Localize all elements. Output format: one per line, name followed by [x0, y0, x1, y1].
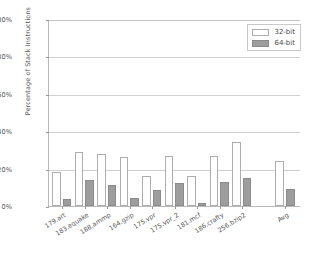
- y-tick-mark: [46, 95, 49, 96]
- bar-32bit: [275, 161, 284, 206]
- bar-group: [117, 20, 140, 206]
- legend-label-32bit: 32-bit: [274, 28, 295, 36]
- y-tick-mark: [46, 20, 49, 21]
- y-tick-label: 100%: [0, 16, 12, 24]
- x-tick-mark: [62, 206, 63, 209]
- bar-32bit: [97, 154, 106, 206]
- x-tick-mark: [220, 206, 221, 209]
- y-tick-label: 0%: [0, 203, 12, 211]
- y-tick-label: 60%: [0, 91, 12, 99]
- legend-label-64bit: 64-bit: [274, 39, 295, 47]
- legend-item-32bit[interactable]: 32-bit: [252, 28, 295, 36]
- bar-32bit: [187, 176, 196, 206]
- x-tick-mark: [130, 206, 131, 209]
- bar-group: [72, 20, 95, 206]
- y-tick-mark: [46, 170, 49, 171]
- x-tick-mark: [197, 206, 198, 209]
- bar-64bit: [286, 189, 295, 206]
- bar-32bit: [75, 152, 84, 206]
- bar-64bit: [130, 198, 139, 206]
- bar-group: [184, 20, 207, 206]
- bar-32bit: [120, 157, 129, 206]
- y-tick-label: 40%: [0, 128, 12, 136]
- y-tick-mark: [46, 57, 49, 58]
- bar-32bit: [165, 156, 174, 206]
- bar-64bit: [153, 190, 162, 206]
- bar-64bit: [243, 178, 252, 206]
- bar-group: [139, 20, 162, 206]
- y-tick-mark: [46, 207, 49, 208]
- bar-64bit: [198, 203, 207, 206]
- x-tick-mark: [285, 206, 286, 209]
- bar-32bit: [142, 176, 151, 206]
- bar-32bit: [52, 172, 61, 206]
- legend-swatch-64bit-icon: [252, 40, 269, 47]
- bar-32bit: [232, 142, 241, 206]
- legend-swatch-32bit-icon: [252, 29, 269, 36]
- bar-32bit: [210, 156, 219, 206]
- chart-legend[interactable]: 32-bit 64-bit: [247, 24, 301, 51]
- x-tick-mark: [85, 206, 86, 209]
- x-tick-mark: [107, 206, 108, 209]
- bar-64bit: [85, 180, 94, 206]
- bar-64bit: [63, 199, 72, 206]
- legend-item-64bit[interactable]: 64-bit: [252, 39, 295, 47]
- y-tick-label: 20%: [0, 166, 12, 174]
- y-tick-label: 80%: [0, 53, 12, 61]
- x-tick-mark: [152, 206, 153, 209]
- bar-group: [49, 20, 72, 206]
- x-tick-mark: [175, 206, 176, 209]
- bar-64bit: [108, 185, 117, 207]
- bar-64bit: [175, 183, 184, 206]
- bar-64bit: [220, 182, 229, 206]
- y-tick-mark: [46, 132, 49, 133]
- bar-group: [94, 20, 117, 206]
- y-axis-title: Percentage of Stack Instructions: [24, 0, 32, 146]
- bar-group: [162, 20, 185, 206]
- bar-group: [207, 20, 230, 206]
- x-tick-mark: [242, 206, 243, 209]
- bar-chart-figure: Percentage of Stack Instructions 0%20%40…: [0, 0, 314, 259]
